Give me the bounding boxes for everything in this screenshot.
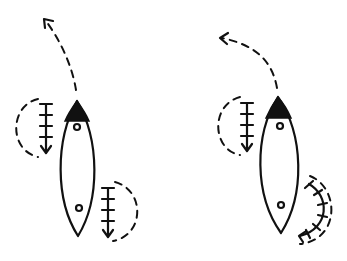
right-stern-sweep-stroke (299, 176, 331, 244)
right-turn-path-arrow (222, 38, 277, 88)
right-canoe-figure (218, 33, 331, 244)
left-stern-paddle-stroke (102, 182, 137, 241)
right-bow-stroke-circle (218, 97, 240, 155)
right-stern-seat-icon (278, 202, 284, 208)
left-bow-paddle-arrow-icon (40, 104, 52, 153)
canoe-stroke-diagram (0, 0, 347, 261)
left-stern-stroke-circle (113, 182, 137, 241)
left-stern-seat-icon (76, 205, 82, 211)
left-bow-seat-icon (74, 124, 80, 130)
left-canoe-figure (16, 19, 137, 241)
left-bow-paddle-stroke (16, 99, 52, 157)
right-bow-paddle-arrow-icon (241, 103, 253, 151)
right-bow-paddle-stroke (218, 97, 253, 155)
left-bow-stroke-circle (16, 99, 38, 157)
left-stern-paddle-arrow-icon (102, 188, 114, 237)
right-bow-seat-icon (277, 123, 283, 129)
right-canoe-bow (266, 97, 291, 118)
left-canoe-bow (65, 101, 89, 121)
left-turn-path-arrow (46, 21, 76, 90)
